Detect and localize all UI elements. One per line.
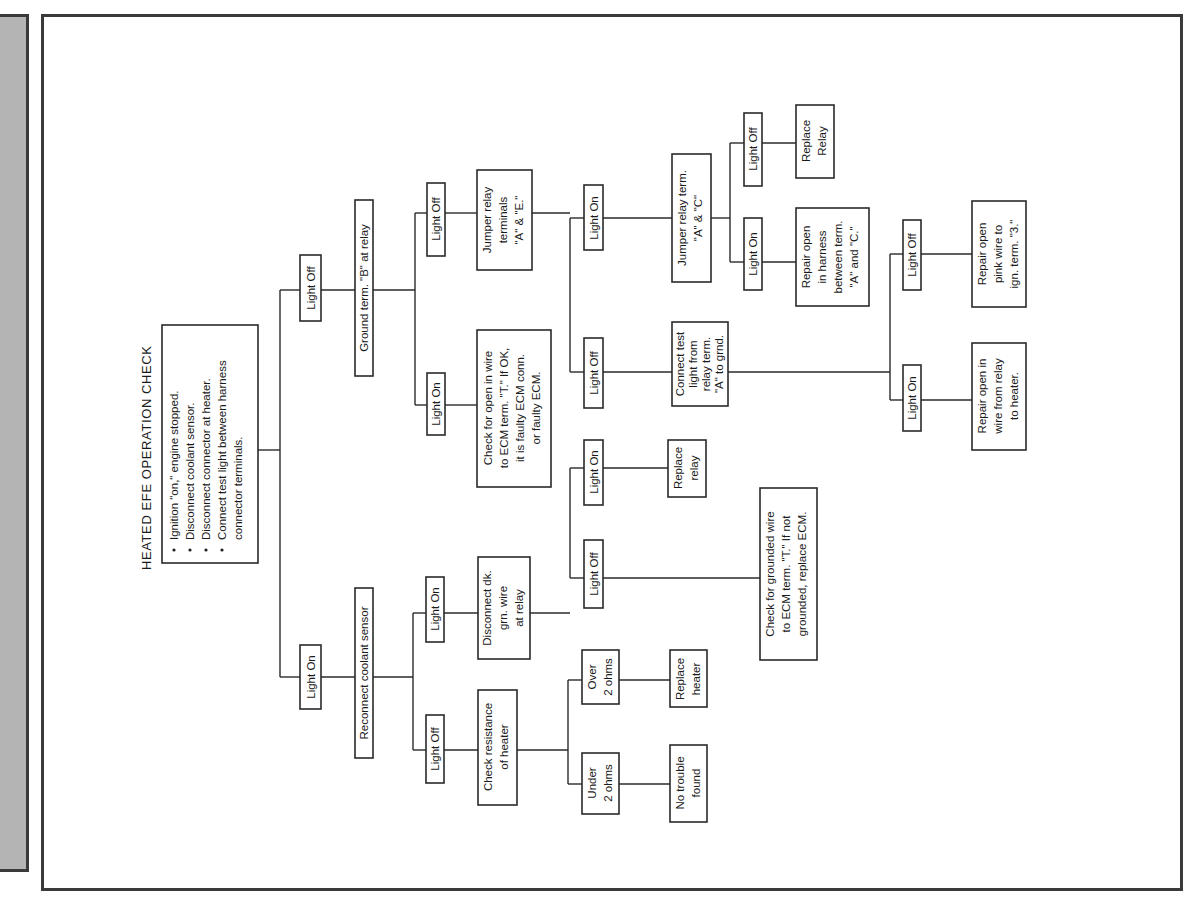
node-jumper-relay-ac: Jumper relay term. "A" & "C" bbox=[672, 154, 711, 282]
svg-text:or faulty ECM.: or faulty ECM. bbox=[530, 372, 542, 445]
svg-text:Repair open: Repair open bbox=[800, 226, 812, 289]
svg-text:Replace: Replace bbox=[800, 120, 812, 162]
svg-text:Ground term. "B" at relay: Ground term. "B" at relay bbox=[358, 224, 370, 352]
svg-text:Light On: Light On bbox=[906, 376, 918, 419]
svg-text:relay term.: relay term. bbox=[700, 337, 712, 391]
node-jumper-ac-light-on: Light On bbox=[744, 218, 762, 290]
node-repair-harness-ac: Repair open in harness between term. "A"… bbox=[796, 208, 869, 306]
node-coolant-light-off: Light Off bbox=[426, 715, 444, 783]
svg-text:Over: Over bbox=[586, 664, 598, 689]
diagram-title: HEATED EFE OPERATION CHECK bbox=[139, 345, 154, 570]
svg-text:Light Off: Light Off bbox=[429, 727, 441, 771]
svg-text:Check for grounded wire: Check for grounded wire bbox=[764, 511, 776, 636]
node-jumper-relay-ae: Jumper relay terminals "A" & "E." bbox=[477, 170, 532, 270]
node-under-2-ohms: Under 2 ohms bbox=[582, 753, 619, 814]
svg-text:Light Off: Light Off bbox=[906, 233, 918, 277]
svg-text:of heater: of heater bbox=[498, 724, 510, 770]
node-ground-light-on: Light On bbox=[427, 373, 445, 435]
svg-text:2 ohms: 2 ohms bbox=[602, 658, 614, 696]
svg-text:Under: Under bbox=[586, 767, 598, 798]
svg-text:Disconnect dk.: Disconnect dk. bbox=[481, 570, 493, 645]
title-and-instructions: HEATED EFE OPERATION CHECK Ignition "on,… bbox=[139, 325, 258, 570]
instruction-item: Disconnect connector at heater. bbox=[200, 378, 212, 540]
svg-text:Check resistance: Check resistance bbox=[482, 703, 494, 791]
node-ground-term-b: Ground term. "B" at relay bbox=[355, 200, 373, 376]
node-over-2-ohms: Over 2 ohms bbox=[582, 650, 619, 704]
svg-text:"A" & "C": "A" & "C" bbox=[692, 195, 704, 241]
svg-text:"A" to grnd.: "A" to grnd. bbox=[713, 335, 725, 393]
svg-text:Repair open in: Repair open in bbox=[976, 359, 988, 434]
svg-text:grn. wire: grn. wire bbox=[497, 586, 509, 630]
svg-text:light from: light from bbox=[687, 340, 699, 387]
node-jumper-ac-light-off: Light Off bbox=[744, 113, 762, 186]
node-root-light-off: Light Off bbox=[300, 255, 321, 321]
node-check-resistance: Check resistance of heater bbox=[478, 690, 517, 805]
svg-text:No trouble: No trouble bbox=[674, 756, 686, 809]
svg-text:wire from relay: wire from relay bbox=[992, 358, 1004, 435]
node-replace-heater: Replace heater bbox=[670, 650, 707, 707]
svg-text:Repair open: Repair open bbox=[976, 223, 988, 286]
svg-text:Jumper relay: Jumper relay bbox=[481, 187, 493, 254]
node-test-light-off: Light Off bbox=[903, 220, 921, 290]
node-test-light-on: Light On bbox=[903, 365, 921, 431]
node-no-trouble-found: No trouble found bbox=[670, 745, 707, 822]
svg-text:Reconnect coolant sensor: Reconnect coolant sensor bbox=[358, 606, 370, 739]
svg-text:Light On: Light On bbox=[588, 196, 600, 239]
svg-text:found: found bbox=[690, 769, 702, 798]
node-root-light-on: Light On bbox=[300, 645, 321, 709]
svg-text:to ECM term. "T." If not: to ECM term. "T." If not bbox=[780, 515, 792, 633]
node-reconnect-coolant: Reconnect coolant sensor bbox=[355, 588, 373, 758]
svg-text:Light Off: Light Off bbox=[305, 266, 317, 310]
node-check-open-ecm: Check for open in wire to ECM term. "T."… bbox=[477, 330, 551, 487]
svg-text:at relay: at relay bbox=[513, 589, 525, 627]
node-coolant-light-on: Light On bbox=[426, 577, 444, 642]
svg-text:relay: relay bbox=[688, 455, 700, 480]
svg-text:Light On: Light On bbox=[429, 587, 441, 630]
svg-text:in harness: in harness bbox=[816, 230, 828, 283]
node-check-grounded-ecm: Check for grounded wire to ECM term. "T.… bbox=[760, 488, 817, 660]
instruction-item: Disconnect coolant sensor. bbox=[184, 403, 196, 540]
svg-text:"A" and "C.": "A" and "C." bbox=[848, 226, 860, 287]
node-dkgrn-light-off: Light Off bbox=[584, 540, 603, 608]
svg-text:terminals: terminals bbox=[497, 196, 509, 243]
flowchart: HEATED EFE OPERATION CHECK Ignition "on,… bbox=[0, 0, 1189, 919]
node-replace-relay-top: Replace Relay bbox=[796, 105, 834, 178]
svg-text:ign. term. "3.": ign. term. "3." bbox=[1008, 220, 1020, 289]
svg-text:Light On: Light On bbox=[305, 655, 317, 698]
svg-text:to ECM term. "T." If OK,: to ECM term. "T." If OK, bbox=[498, 348, 510, 469]
node-jumper-ae-light-off: Light Off bbox=[584, 338, 603, 408]
node-repair-pink-wire: Repair open pink wire to ign. term. "3." bbox=[972, 201, 1026, 307]
svg-text:Replace: Replace bbox=[674, 658, 686, 700]
svg-text:to heater.: to heater. bbox=[1008, 372, 1020, 420]
node-disconnect-dk-grn: Disconnect dk. grn. wire at relay bbox=[478, 557, 530, 659]
svg-text:between term.: between term. bbox=[832, 221, 844, 294]
svg-text:pink wire to: pink wire to bbox=[992, 225, 1004, 283]
svg-text:Relay: Relay bbox=[816, 126, 828, 156]
svg-text:Light On: Light On bbox=[747, 232, 759, 275]
instruction-item: Connect test light between harness bbox=[216, 360, 228, 540]
svg-text:Check for open in wire: Check for open in wire bbox=[482, 351, 494, 465]
node-replace-relay-low: Replace relay bbox=[668, 440, 706, 497]
svg-text:heater: heater bbox=[690, 663, 702, 696]
svg-text:Replace: Replace bbox=[672, 447, 684, 489]
node-dkgrn-light-on: Light On bbox=[584, 440, 603, 505]
svg-text:2 ohms: 2 ohms bbox=[602, 764, 614, 802]
node-repair-relay-heater: Repair open in wire from relay to heater… bbox=[972, 343, 1026, 450]
svg-text:Light On: Light On bbox=[588, 450, 600, 493]
svg-text:Jumper relay term.: Jumper relay term. bbox=[676, 170, 688, 266]
svg-text:Light On: Light On bbox=[430, 382, 442, 425]
node-jumper-ae-light-on: Light On bbox=[584, 185, 603, 250]
svg-text:Connect test: Connect test bbox=[674, 331, 686, 396]
node-connect-test-light: Connect test light from relay term. "A" … bbox=[672, 322, 728, 406]
svg-text:it is faulty ECM conn.: it is faulty ECM conn. bbox=[514, 354, 526, 462]
svg-text:grounded, replace ECM.: grounded, replace ECM. bbox=[796, 512, 808, 637]
svg-text:Light Off: Light Off bbox=[588, 351, 600, 395]
svg-text:Light Off: Light Off bbox=[588, 552, 600, 596]
svg-text:Light Off: Light Off bbox=[430, 197, 442, 241]
node-ground-light-off: Light Off bbox=[427, 183, 445, 256]
instruction-item: Ignition "on," engine stopped. bbox=[168, 391, 180, 540]
svg-text:"A" & "E.": "A" & "E." bbox=[513, 196, 525, 245]
svg-text:Light Off: Light Off bbox=[747, 127, 759, 171]
instruction-item: connector terminals. bbox=[232, 436, 244, 540]
